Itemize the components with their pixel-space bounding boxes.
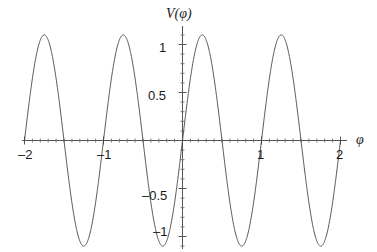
x-tick-label-2: 2: [336, 148, 343, 161]
x-tick-label-1: 1: [257, 148, 264, 161]
y-tick-label-minus-1: –1: [153, 225, 167, 238]
x-tick-label-minus-1: –1: [97, 148, 111, 161]
y-tick-label-0-5: 0.5: [148, 89, 166, 102]
plot-canvas: [0, 0, 377, 252]
plot-figure: V(φ) φ –2 –1 1 2 1 0.5 –0.5 –1: [0, 0, 377, 252]
x-tick-label-minus-2: –2: [18, 148, 32, 161]
y-tick-label-1: 1: [159, 41, 166, 54]
y-tick-label-minus-0-5: –0.5: [142, 189, 167, 202]
plot-title: V(φ): [166, 7, 192, 21]
x-axis-title: φ: [356, 133, 364, 147]
